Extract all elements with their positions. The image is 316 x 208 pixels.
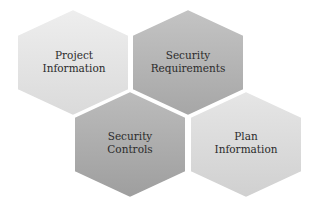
label-line: Security	[151, 49, 226, 62]
label-project-information: Project Information	[42, 49, 105, 74]
label-security-controls: Security Controls	[107, 130, 152, 155]
hexagon-diagram	[0, 0, 316, 208]
label-line: Information	[214, 142, 277, 155]
label-line: Plan	[214, 130, 277, 143]
label-line: Project	[42, 49, 105, 62]
label-line: Security	[107, 130, 152, 143]
label-line: Requirements	[151, 61, 226, 74]
label-line: Information	[42, 61, 105, 74]
label-plan-information: Plan Information	[214, 130, 277, 155]
label-security-requirements: Security Requirements	[151, 49, 226, 74]
label-line: Controls	[107, 142, 152, 155]
